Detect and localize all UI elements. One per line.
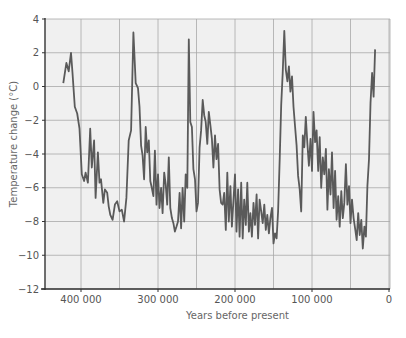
- y-tick-label: 0: [33, 81, 39, 92]
- x-tick-label: 0: [386, 294, 392, 305]
- y-tick-labels: 420−2−4−6−8−10−12: [18, 14, 39, 295]
- y-tick-label: 4: [33, 14, 39, 25]
- temperature-chart: 420−2−4−6−8−10−12 400 000300 000200 0001…: [0, 0, 406, 338]
- x-tick-label: 100 000: [291, 294, 332, 305]
- x-tick-label: 300 000: [137, 294, 178, 305]
- x-tick-label: 200 000: [214, 294, 255, 305]
- y-tick-label: 2: [33, 47, 39, 58]
- y-tick-label: −10: [18, 250, 39, 261]
- y-tick-label: −2: [24, 115, 39, 126]
- y-tick-label: −8: [24, 216, 39, 227]
- y-tick-label: −12: [18, 284, 39, 295]
- y-tick-label: −4: [24, 149, 39, 160]
- x-tick-label: 400 000: [60, 294, 101, 305]
- y-tick-label: −6: [24, 182, 39, 193]
- x-tick-labels: 400 000300 000200 000100 0000: [60, 294, 392, 305]
- x-axis-label: Years before present: [185, 310, 289, 321]
- y-axis-label: Temperature change (°C): [8, 81, 19, 208]
